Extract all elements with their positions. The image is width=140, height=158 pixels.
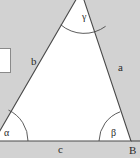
triangle-diagram [0, 0, 140, 158]
side-label-b: b [31, 56, 37, 67]
side-label-a: a [118, 62, 123, 73]
angle-label-gamma: γ [82, 12, 86, 22]
left-edge-box [0, 48, 11, 73]
side-label-c: c [58, 144, 63, 155]
vertex-label-b: B [129, 145, 136, 156]
angle-label-beta: β [111, 128, 116, 138]
triangle-shape [0, 0, 131, 141]
diagram-canvas: a b c α β γ B [0, 0, 140, 158]
angle-label-alpha: α [4, 128, 9, 138]
